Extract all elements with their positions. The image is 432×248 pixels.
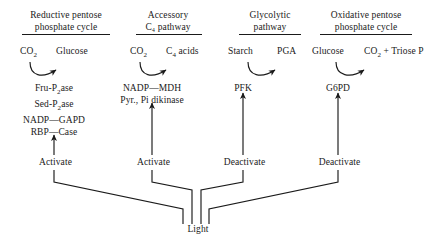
enzyme-list-col2: NADP—MDH Pyr., Pi dikinase (100, 82, 204, 107)
substrate-subscript: 2 (33, 51, 37, 59)
substrate-col1: CO2 (20, 46, 37, 59)
enzyme-pre: RBP (31, 127, 49, 137)
header-rule-col2 (136, 34, 202, 35)
header-line-1: Accessory (120, 10, 216, 22)
enzyme-list-col4: G6PD (308, 82, 368, 94)
enzyme-post: Case (58, 127, 77, 137)
enzyme-list-col3: PFK (213, 82, 273, 94)
reaction-arrow-col1 (30, 62, 56, 75)
enzyme-pre: NADP (23, 115, 49, 125)
product-col3: PGA (277, 46, 296, 59)
enzyme-item: RBP—Case (4, 126, 104, 138)
substrate-col4: Glucose (312, 46, 344, 59)
substrate-text: Glucose (312, 46, 344, 56)
header-rule-col1 (22, 34, 110, 35)
light-connector-col4 (209, 170, 338, 224)
enzyme-post: ase (61, 83, 73, 93)
product-tail: + Triose P (381, 46, 424, 56)
header-line-1: Glycolytic (224, 10, 316, 22)
enzyme-pre: Sed-P (34, 99, 57, 109)
enzyme-item: G6PD (308, 82, 368, 94)
enzyme-pre: Fru-P (35, 83, 57, 93)
regulation-label-col1: Activate (24, 157, 87, 167)
enzyme-link-dash: — (49, 115, 59, 125)
substrate-text: Starch (228, 46, 253, 56)
regulation-label-col3: Deactivate (207, 157, 282, 167)
column-header-col4: Oxidative pentose phosphate cycle (310, 10, 422, 33)
regulation-label-col2: Activate (122, 157, 185, 167)
enzyme-link-dash: — (149, 83, 159, 93)
regulation-label-col4: Deactivate (302, 157, 377, 167)
substrate-text: CO (130, 46, 143, 56)
enzyme-pre: NADP (123, 83, 149, 93)
column-header-col3: Glycolytic pathway (224, 10, 316, 33)
enzyme-item: NADP—MDH (100, 82, 204, 94)
light-connector-col1 (54, 170, 183, 224)
product-text: PGA (277, 46, 296, 56)
column-header-col2: Accessory C₄ pathway (120, 10, 216, 33)
enzyme-post: ase (61, 99, 73, 109)
header-rule-col4 (320, 34, 412, 35)
product-text: Glucose (56, 46, 88, 56)
header-line-2: phosphate cycle (14, 22, 118, 34)
product-text: CO (364, 46, 377, 56)
light-connector-col3 (201, 170, 243, 224)
header-rule-col3 (239, 34, 301, 35)
header-line-2: C₄ pathway (120, 22, 216, 34)
enzyme-item: PFK (213, 82, 273, 94)
reaction-arrow-col3 (248, 62, 275, 75)
enzyme-link-dash: — (49, 127, 59, 137)
substrate-col2: CO2 (130, 46, 147, 59)
enzyme-list-col1: Fru-P2ase Sed-P2ase NADP—GAPD RBP—Case (4, 82, 104, 139)
enzyme-item: Pyr., Pi dikinase (100, 94, 204, 106)
enzyme-pre: PFK (234, 83, 252, 93)
enzyme-pre: G6PD (326, 83, 350, 93)
substrate-subscript: 2 (143, 51, 147, 59)
header-line-2: phosphate cycle (310, 22, 422, 34)
reaction-arrow-col2 (140, 62, 166, 75)
substrate-text: CO (20, 46, 33, 56)
light-connector-col2 (152, 170, 192, 224)
enzyme-post: MDH (159, 83, 181, 93)
header-line-2: pathway (224, 22, 316, 34)
column-header-col1: Reductive pentose phosphate cycle (14, 10, 118, 33)
product-tail: acids (176, 46, 199, 56)
substrate-col3: Starch (228, 46, 253, 59)
product-col2: C4 acids (166, 46, 199, 59)
reaction-arrow-col4 (336, 62, 364, 75)
header-line-1: Reductive pentose (14, 10, 118, 22)
enzyme-item: Sed-P2ase (4, 98, 104, 114)
enzyme-post: GAPD (59, 115, 85, 125)
product-col4: CO2 + Triose P (364, 46, 424, 59)
enzyme-item: NADP—GAPD (4, 114, 104, 126)
product-col1: Glucose (56, 46, 88, 59)
enzyme-pre: Pyr., Pi dikinase (120, 95, 183, 105)
header-line-1: Oxidative pentose (310, 10, 422, 22)
light-node-label: Light (176, 224, 220, 234)
enzyme-item: Fru-P2ase (4, 82, 104, 98)
